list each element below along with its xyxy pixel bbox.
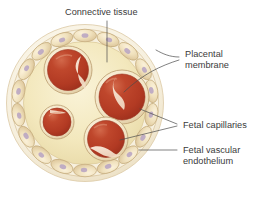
cell-nucleus <box>81 168 87 172</box>
label-fetal-vascular-endothelium-line1: Fetal vascular <box>183 145 240 155</box>
label-placental-membrane-line2: membrane <box>185 60 229 70</box>
capillary-small-left <box>40 105 74 139</box>
cell-nucleus <box>82 33 89 38</box>
label-fetal-vascular-endothelium-line2: endothelium <box>183 156 233 166</box>
label-placental-membrane-line1: Placental <box>185 49 223 59</box>
diagram-canvas: Connective tissue Placental membrane Fet… <box>0 0 257 199</box>
capillary-bottom <box>84 117 128 161</box>
label-connective-tissue: Connective tissue <box>65 7 138 17</box>
villus-cross-section <box>7 25 164 182</box>
leader-placental-membrane-outer <box>156 50 179 57</box>
trophoblast-cell <box>74 29 97 42</box>
capillary-upper-left <box>44 46 92 94</box>
blood-mass <box>99 74 145 120</box>
label-fetal-capillaries: Fetal capillaries <box>183 120 247 130</box>
placental-villus-diagram: Connective tissue Placental membrane Fet… <box>0 0 257 199</box>
trophoblast-cell <box>74 164 97 177</box>
